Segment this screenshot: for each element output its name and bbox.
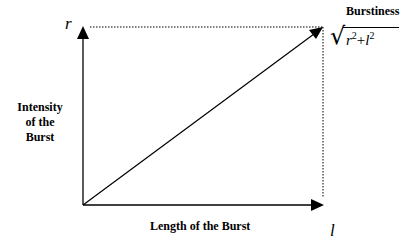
y-axis-label-line-3: Burst — [10, 130, 70, 145]
y-axis-symbol: r — [65, 14, 72, 34]
square-root-bar — [343, 27, 399, 28]
x-axis-symbol: l — [330, 221, 335, 241]
x-axis-arrowhead-icon — [311, 199, 324, 211]
burstiness-vector — [83, 34, 314, 205]
y-axis-label-line-2: of the — [10, 115, 70, 130]
formula-l-exponent: 2 — [369, 30, 374, 41]
x-axis-label: Length of the Burst — [150, 219, 250, 234]
burstiness-label: Burstiness — [346, 4, 399, 19]
y-axis-arrowhead-icon — [77, 26, 89, 39]
y-axis-label: Intensity of the Burst — [10, 100, 70, 145]
formula-radicand: r2+l2 — [346, 30, 374, 49]
y-axis-label-line-1: Intensity — [10, 100, 70, 115]
burstiness-arrowhead-icon — [309, 27, 323, 39]
